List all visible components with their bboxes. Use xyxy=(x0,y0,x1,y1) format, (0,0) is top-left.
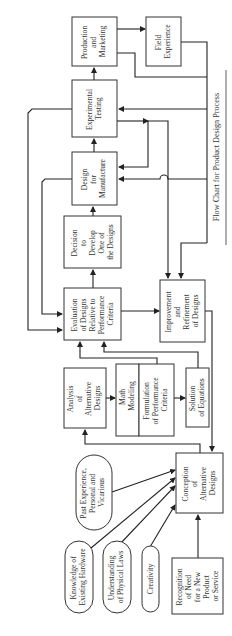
oval-knowledge-existing-hardware: Knowledge of Existing Hardware xyxy=(65,541,93,613)
svg-text:Flow Chart for Product Design: Flow Chart for Product Design Process xyxy=(212,93,221,222)
box-experimental-testing: Experimental Testing xyxy=(72,80,117,137)
box-improvement-refinement: Improvement and Refinement of Designs xyxy=(160,280,205,342)
box-math-modeling: Math Modeling xyxy=(116,364,139,436)
svg-text:Decision to Develo: Decision to Develop One of the Designs xyxy=(70,224,115,260)
box-solution-of-equations: Solution of Equations xyxy=(186,368,209,427)
svg-text:Knowledge of Existing Ha: Knowledge of Existing Hardware xyxy=(69,548,87,606)
figure-caption: Flow Chart for Product Design Process xyxy=(212,70,226,245)
box-recognition-of-need: Recognition of Need for a New Product or… xyxy=(172,558,223,614)
box-conception-alternative-designs: Conception of Alternative Designs xyxy=(176,453,223,513)
box-design-for-manufacture: Design for Manufacture xyxy=(72,152,117,205)
svg-text:Creativity: Creativity xyxy=(146,564,155,595)
product-design-flowchart: Production and Marketing Field Experienc… xyxy=(0,0,232,636)
box-analysis-alternative-designs: Analysis of Alternative Designs xyxy=(64,368,106,428)
svg-text:Understanding of Physica: Understanding of Physical Laws xyxy=(107,551,125,603)
box-production-marketing: Production and Marketing xyxy=(72,17,117,66)
svg-text:Recognition of Need: Recognition of Need for a New Product or… xyxy=(175,566,220,605)
oval-understanding-physical-laws: Understanding of Physical Laws xyxy=(103,541,131,613)
box-formulation-performance-criteria: Formulation of Performance Criteria xyxy=(139,364,174,436)
oval-creativity: Creativity xyxy=(142,546,159,612)
box-evaluation-of-designs: Evaluation of Designs Relative to Perfor… xyxy=(64,288,121,340)
svg-text:Solution of Equations: Solution of Equations xyxy=(188,378,206,417)
oval-past-experience: Past Experience, Personal and Vicarious xyxy=(76,455,112,530)
svg-text:Improvement and Re: Improvement and Refinement of Designs xyxy=(164,290,200,333)
box-field-experience: Field Experience xyxy=(146,17,181,66)
box-decision-to-develop: Decision to Develop One of the Designs xyxy=(64,216,121,268)
